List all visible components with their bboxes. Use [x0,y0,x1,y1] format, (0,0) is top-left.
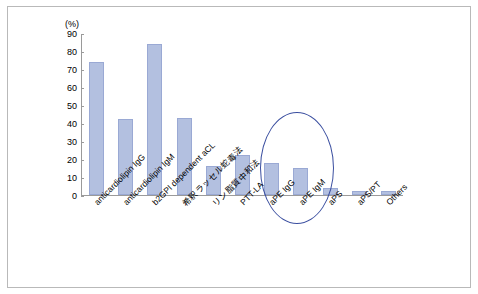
bar-cell [374,34,403,195]
bar [89,62,104,195]
y-axis-tick-label: 30 [51,137,81,147]
y-axis-tick-label: 80 [51,47,81,57]
bar-cell [316,34,345,195]
bar-cell [286,34,315,195]
y-axis-tick-label: 40 [51,119,81,129]
x-axis-labels: anticardiolipin IgGanticardiolipin IgMb2… [81,196,403,288]
chart-frame: (%) 0102030405060708090 anticardiolipin … [7,6,471,288]
bar-cell [82,34,111,195]
y-axis-unit-label: (%) [65,19,79,29]
y-axis-tick-label: 60 [51,83,81,93]
y-axis-tick-label: 10 [51,173,81,183]
y-axis-tick-label: 70 [51,65,81,75]
y-axis: 0102030405060708090 [48,34,81,196]
y-axis-tick-label: 50 [51,101,81,111]
bar-cell [257,34,286,195]
bar-cell [345,34,374,195]
y-axis-tick-label: 90 [51,29,81,39]
y-axis-tick-label: 20 [51,155,81,165]
y-axis-tick-label: 0 [51,191,81,201]
